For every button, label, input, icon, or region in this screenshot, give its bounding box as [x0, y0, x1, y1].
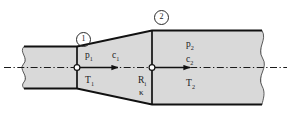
label-T1-subscript: 1 [91, 80, 94, 87]
label-T1: T1 [85, 76, 94, 87]
station-2-node-dot [149, 65, 155, 71]
label-c1: c1 [112, 51, 120, 62]
station-2-marker: 2 [154, 10, 169, 25]
station-1-node-dot [74, 65, 80, 71]
label-T2-subscript: 2 [192, 83, 195, 90]
label-R-subscript: i [144, 80, 146, 87]
label-p1: p1 [85, 51, 93, 62]
label-R: Ri [138, 76, 146, 87]
station-1-marker: 1 [76, 32, 91, 47]
label-p2-subscript: 2 [191, 44, 194, 51]
label-kappa: κ [139, 88, 144, 97]
label-c1-subscript: 1 [116, 55, 119, 62]
label-c2: c2 [186, 55, 194, 66]
nozzle-diagram: 1 2 p1 c1 T1 Ri κ p2 c2 T2 [0, 0, 291, 119]
label-kappa-symbol: κ [139, 87, 144, 97]
label-p2: p2 [186, 40, 194, 51]
label-c2-subscript: 2 [190, 59, 193, 66]
diagram-canvas [0, 0, 291, 119]
label-p1-subscript: 1 [90, 55, 93, 62]
label-T2: T2 [186, 79, 195, 90]
